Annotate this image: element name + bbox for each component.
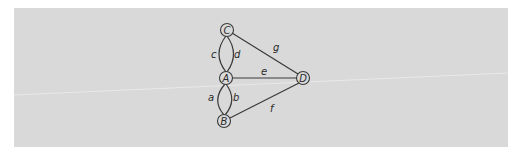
node-label-D: D [299, 73, 307, 84]
node-B: B [218, 115, 231, 128]
edge-b [225, 84, 232, 115]
node-label-B: B [221, 116, 228, 127]
edge-d [227, 36, 234, 72]
edge-label-e: e [261, 66, 267, 77]
graph-diagram: c d a b e g f C A B D [0, 0, 527, 157]
node-C: C [221, 24, 234, 37]
edge-a [218, 84, 225, 115]
edge-label-b: b [233, 92, 239, 103]
edge-label-a: a [208, 92, 214, 103]
node-label-A: A [222, 73, 230, 84]
edge-label-c: c [211, 49, 217, 60]
node-A: A [220, 72, 233, 85]
edge-label-d: d [234, 49, 241, 60]
edge-f [230, 83, 299, 118]
edge-label-f: f [270, 103, 275, 114]
node-label-C: C [224, 25, 231, 36]
edge-c [219, 36, 226, 72]
edge-label-g: g [273, 42, 279, 53]
node-D: D [297, 72, 310, 85]
